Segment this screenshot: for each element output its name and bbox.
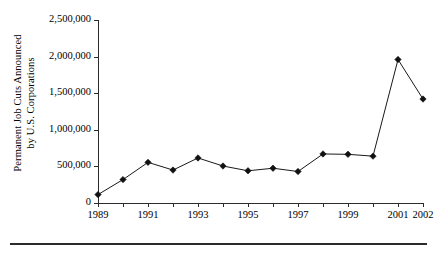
data-point-marker [320,151,326,157]
data-point-marker [95,191,101,197]
plot-area [0,0,437,256]
data-point-marker [170,167,176,173]
data-point-marker [270,165,276,171]
bottom-rule [10,243,427,245]
data-point-marker [220,163,226,169]
chart-figure: Permanent Job Cuts Announced by U.S. Cor… [0,0,437,256]
data-point-marker [370,153,376,159]
data-line [98,60,423,195]
data-point-marker [195,155,201,161]
data-point-marker [420,96,426,102]
data-point-marker [145,159,151,165]
data-point-marker [120,176,126,182]
data-point-marker [295,168,301,174]
data-point-marker [245,168,251,174]
data-markers [95,56,426,197]
data-point-marker [395,56,401,62]
data-point-marker [345,151,351,157]
